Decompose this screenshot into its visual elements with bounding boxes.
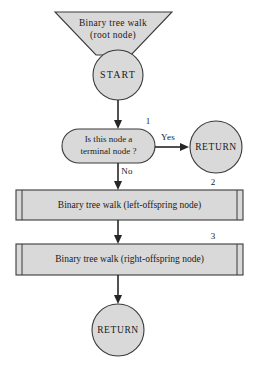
process-right-step-number: 3: [211, 231, 216, 241]
decision-label-line1: Is this node a: [85, 134, 133, 144]
no-branch-label: No: [121, 166, 133, 176]
decision-step-number: 1: [146, 116, 151, 126]
arrow-yes-branch: [180, 143, 189, 151]
return-right-label: RETURN: [195, 142, 237, 152]
arrow-start-to-decision: [114, 120, 122, 129]
process-left-step-number: 2: [211, 177, 216, 187]
arrow-process-left-to-right: [114, 235, 122, 244]
arrow-no-branch: [114, 181, 122, 190]
flowchart-canvas: Binary tree walk (root node) START Is th…: [0, 0, 253, 371]
start-node-label: START: [100, 69, 136, 80]
header-title-line2: (root node): [90, 30, 136, 41]
arrow-process-to-return: [114, 295, 122, 304]
yes-branch-label: Yes: [161, 132, 175, 142]
process-left-label: Binary tree walk (left-offspring node): [58, 200, 201, 211]
flowchart-diagram: Binary tree walk (root node) START Is th…: [0, 0, 253, 371]
return-bottom-label: RETURN: [97, 325, 139, 335]
process-right-label: Binary tree walk (right-offspring node): [55, 254, 204, 265]
header-title-line1: Binary tree walk: [79, 18, 147, 28]
decision-label-line2: terminal node ?: [81, 146, 137, 156]
